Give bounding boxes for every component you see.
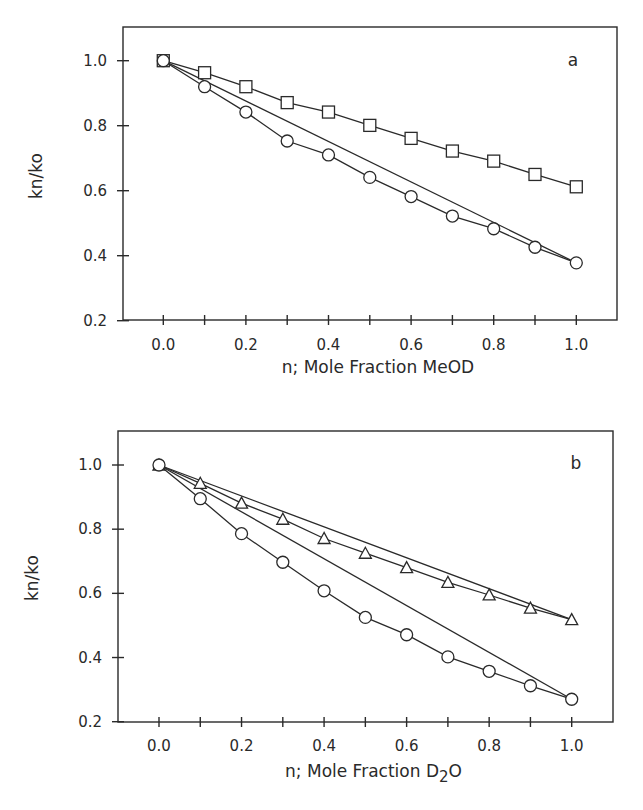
circle-marker-icon [281, 135, 293, 147]
circle-marker-icon [524, 680, 536, 692]
circle-marker-icon [240, 106, 252, 118]
y-tick-label: 0.4 [83, 247, 107, 265]
circle-marker-icon [236, 528, 248, 540]
circle-marker-icon [199, 81, 211, 93]
y-tick-label: 0.4 [78, 649, 102, 667]
square-marker-icon [281, 97, 293, 109]
y-axis-title: kn/ko [22, 555, 42, 601]
reference-line [163, 61, 576, 263]
circle-marker-icon [566, 693, 578, 705]
circle-marker-icon [405, 191, 417, 203]
plot-area-a: 0.00.20.40.60.81.00.20.40.60.81.0kn/kon;… [0, 0, 643, 400]
circle-marker-icon [401, 629, 413, 641]
y-tick-label: 0.2 [83, 312, 107, 330]
triangle-marker-icon [524, 602, 536, 613]
triangle-marker-icon [277, 513, 289, 524]
x-tick-label: 1.0 [564, 336, 588, 354]
square-marker-icon [570, 181, 582, 193]
x-tick-label: 0.4 [317, 336, 341, 354]
x-tick-label: 0.8 [482, 336, 506, 354]
x-tick-label: 0.4 [312, 737, 336, 755]
x-tick-label: 0.0 [151, 336, 175, 354]
square-marker-icon [364, 119, 376, 131]
plot-frame [118, 431, 613, 722]
triangle-marker-icon [401, 562, 413, 573]
y-tick-label: 1.0 [78, 456, 102, 474]
y-tick-label: 0.6 [83, 182, 107, 200]
chart-panel-b: 0.00.20.40.60.81.00.20.40.60.81.0kn/kon;… [0, 400, 643, 810]
triangle-marker-icon [359, 547, 371, 558]
reference-line [159, 465, 572, 620]
reference-line [159, 465, 572, 699]
x-tick-label: 0.2 [230, 737, 254, 755]
circle-marker-icon [483, 665, 495, 677]
circle-marker-icon [157, 55, 169, 67]
circle-marker-icon [153, 459, 165, 471]
y-tick-label: 1.0 [83, 52, 107, 70]
triangle-marker-icon [318, 532, 330, 543]
x-tick-label: 0.8 [477, 737, 501, 755]
square-marker-icon [199, 67, 211, 79]
square-marker-icon [446, 145, 458, 157]
x-tick-label: 0.0 [147, 737, 171, 755]
x-tick-label: 1.0 [560, 737, 584, 755]
y-axis-title: kn/ko [26, 153, 46, 199]
x-tick-label: 0.6 [399, 336, 423, 354]
circle-marker-icon [446, 210, 458, 222]
square-marker-icon [529, 168, 541, 180]
x-tick-label: 0.6 [395, 737, 419, 755]
circle-marker-icon [323, 149, 335, 161]
panel-label: a [568, 50, 578, 70]
x-tick-label: 0.2 [234, 336, 258, 354]
square-marker-icon [405, 132, 417, 144]
y-tick-label: 0.2 [78, 713, 102, 731]
circle-marker-icon [488, 223, 500, 235]
panel-label: b [571, 453, 582, 473]
square-marker-icon [488, 155, 500, 167]
circle-marker-icon [194, 493, 206, 505]
chart-panel-a: 0.00.20.40.60.81.00.20.40.60.81.0kn/kon;… [0, 0, 643, 400]
triangle-marker-icon [442, 576, 454, 587]
circle-marker-icon [442, 651, 454, 663]
x-axis-title: n; Mole Fraction MeOD [282, 357, 474, 377]
y-tick-label: 0.8 [83, 117, 107, 135]
square-marker-icon [323, 106, 335, 118]
circle-marker-icon [318, 585, 330, 597]
circle-marker-icon [570, 257, 582, 269]
plot-area-b: 0.00.20.40.60.81.00.20.40.60.81.0kn/kon;… [0, 400, 643, 810]
circle-marker-icon [277, 556, 289, 568]
y-tick-label: 0.8 [78, 520, 102, 538]
circle-marker-icon [359, 611, 371, 623]
triangle-marker-icon [236, 497, 248, 508]
x-axis-title: n; Mole Fraction D2O [285, 761, 462, 786]
square-marker-icon [240, 81, 252, 93]
circle-marker-icon [529, 241, 541, 253]
y-tick-label: 0.6 [78, 584, 102, 602]
circle-marker-icon [364, 171, 376, 183]
